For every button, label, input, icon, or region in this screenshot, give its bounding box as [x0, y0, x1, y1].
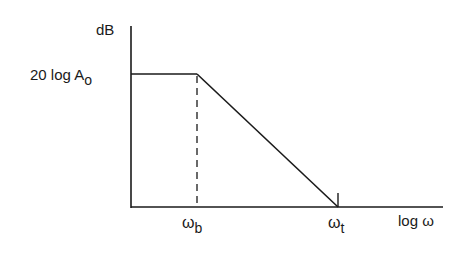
rolloff-line [197, 74, 338, 207]
y-axis-label: dB [96, 21, 114, 38]
gain-level-label: 20 log Ao [30, 66, 92, 88]
breakpoint-label: ωb [182, 214, 203, 236]
x-axis-label: log ω [398, 212, 434, 229]
crossover-label: ωt [328, 214, 345, 236]
bode-diagram: dB 20 log Ao ωb ωt log ω [0, 0, 473, 255]
